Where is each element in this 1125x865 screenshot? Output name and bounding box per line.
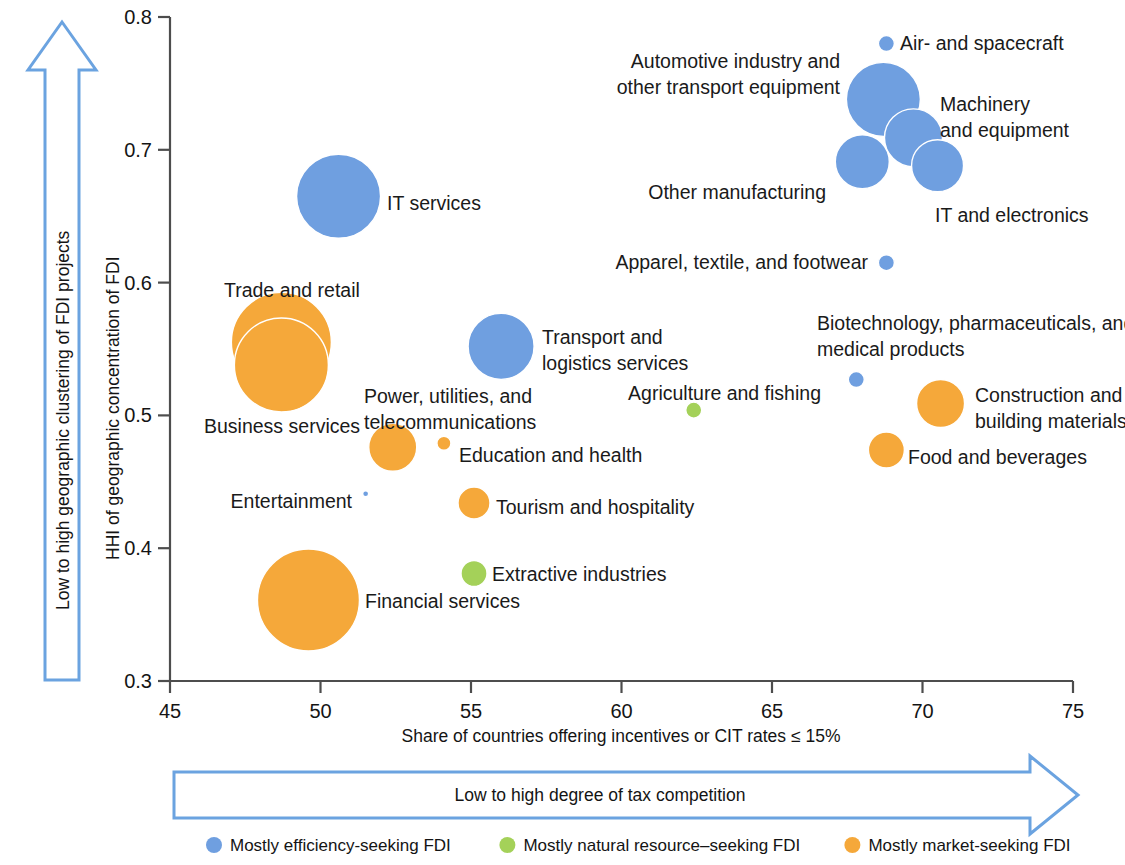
legend-dot-2 — [844, 837, 860, 853]
legend-label-2: Mostly market-seeking FDI — [868, 836, 1070, 855]
legend-group: Mostly efficiency-seeking FDIMostly natu… — [206, 836, 1071, 855]
legend-dot-1 — [499, 837, 515, 853]
legend-dot-0 — [206, 837, 222, 853]
legend-label-1: Mostly natural resource–seeking FDI — [523, 836, 800, 855]
legend-label-0: Mostly efficiency-seeking FDI — [230, 836, 451, 855]
bubble-chart: Low to high geographic clustering of FDI… — [0, 0, 1125, 865]
legend-layer: Mostly efficiency-seeking FDIMostly natu… — [0, 0, 1125, 865]
